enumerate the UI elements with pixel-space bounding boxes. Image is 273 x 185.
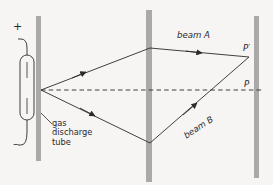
caption-leader-line bbox=[41, 113, 52, 124]
beam-a-label: beam A bbox=[177, 31, 210, 41]
positive-lead-wire bbox=[18, 39, 27, 55]
point-p-prime-label: P′ bbox=[243, 44, 250, 54]
beam-b-arrow-2 bbox=[183, 103, 197, 115]
negative-terminal-label: – bbox=[13, 138, 19, 150]
gas-discharge-tube-caption: gas discharge tube bbox=[52, 119, 92, 147]
caption-line-3: tube bbox=[52, 138, 92, 147]
negative-lead-wire bbox=[18, 120, 27, 145]
diagram-canvas bbox=[0, 0, 273, 185]
point-p-label: P bbox=[244, 80, 249, 90]
beam-a-arrow-1 bbox=[72, 72, 86, 78]
left-barrier bbox=[36, 16, 41, 161]
middle-barrier bbox=[146, 10, 152, 182]
physics-diagram-figure: + – gas discharge tube beam A beam B P′ … bbox=[0, 0, 273, 185]
positive-terminal-label: + bbox=[13, 21, 22, 33]
beam-a-arrow-2 bbox=[186, 51, 202, 53]
beam-b-arrow-1 bbox=[80, 108, 95, 116]
beam-a-segment-1 bbox=[41, 48, 150, 90]
right-barrier bbox=[254, 16, 259, 178]
